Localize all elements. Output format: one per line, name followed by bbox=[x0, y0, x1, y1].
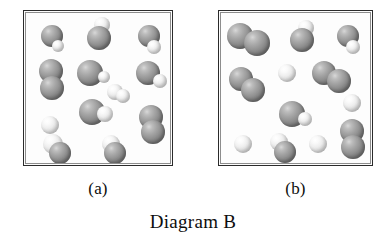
light-atom bbox=[346, 40, 360, 54]
molecule-box-b bbox=[218, 10, 373, 166]
light-atom bbox=[98, 71, 110, 83]
light-atom bbox=[278, 64, 296, 82]
dark-atom bbox=[244, 30, 270, 56]
diagram-caption: Diagram B bbox=[0, 212, 386, 231]
light-atom bbox=[97, 106, 113, 122]
light-atom bbox=[116, 89, 130, 103]
dark-atom bbox=[40, 76, 64, 100]
light-atom bbox=[41, 116, 59, 134]
molecule-box-a bbox=[23, 10, 173, 166]
panel-label-a: (a) bbox=[23, 180, 173, 197]
dark-atom bbox=[241, 78, 265, 102]
dark-atom bbox=[274, 141, 296, 163]
dark-atom bbox=[290, 28, 314, 52]
dark-atom bbox=[87, 26, 111, 50]
light-atom bbox=[52, 40, 64, 52]
dark-atom bbox=[141, 120, 165, 144]
dark-atom bbox=[341, 135, 365, 159]
diagram-figure: (a) (b) Diagram B bbox=[0, 0, 386, 248]
dark-atom bbox=[49, 142, 71, 164]
panel-label-b: (b) bbox=[218, 180, 373, 197]
light-atom bbox=[309, 135, 327, 153]
dark-atom bbox=[327, 69, 351, 93]
light-atom bbox=[298, 112, 312, 126]
dark-atom bbox=[104, 142, 126, 164]
light-atom bbox=[147, 40, 161, 54]
light-atom bbox=[153, 74, 167, 88]
light-atom bbox=[234, 135, 252, 153]
light-atom bbox=[343, 94, 361, 112]
